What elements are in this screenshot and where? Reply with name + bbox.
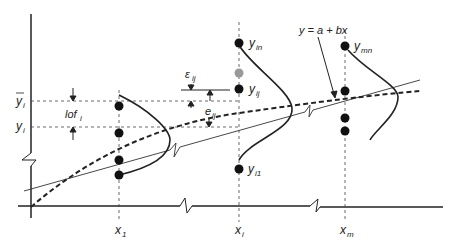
svg-text:y: y: [248, 82, 256, 96]
label-ymn: y mn: [353, 39, 373, 55]
point-mean-xi: [235, 69, 244, 78]
label-yin: y in: [248, 36, 263, 52]
label-lof: lof i: [65, 108, 82, 123]
label-yij: y ij: [248, 82, 260, 98]
svg-text:ij: ij: [212, 111, 216, 120]
label-epsilon: ε ij: [185, 68, 196, 83]
svg-text:x: x: [339, 223, 347, 237]
svg-text:y: y: [353, 39, 361, 53]
svg-text:y: y: [15, 119, 23, 133]
svg-text:i: i: [242, 230, 244, 239]
equation-pointer: [318, 37, 337, 98]
svg-text:ε: ε: [185, 68, 190, 80]
point-xm-2: [341, 87, 350, 96]
svg-text:e: e: [205, 105, 211, 117]
svg-text:ij: ij: [256, 89, 260, 98]
svg-text:in: in: [256, 43, 263, 52]
label-yi1: y i1: [247, 162, 261, 178]
svg-text:x: x: [114, 223, 122, 237]
svg-text:lof: lof: [65, 108, 78, 120]
svg-text:mn: mn: [361, 46, 373, 55]
point-x1-3: [115, 156, 124, 165]
svg-text:y: y: [15, 94, 23, 108]
data-points: [115, 39, 350, 180]
label-xi: x i: [234, 223, 244, 239]
svg-text:i: i: [23, 126, 25, 135]
point-ymn: [341, 42, 350, 51]
svg-text:i: i: [23, 101, 25, 110]
point-xm-4: [341, 127, 350, 136]
equation-label: y = a + bx: [298, 24, 348, 36]
x-guides: [119, 22, 345, 222]
point-yij: [235, 85, 244, 94]
svg-text:y: y: [248, 36, 256, 50]
svg-text:x: x: [234, 223, 242, 237]
point-x1-4: [115, 171, 124, 180]
label-x1: x 1: [114, 223, 126, 239]
y-axis: [22, 14, 36, 218]
point-yi1: [235, 165, 244, 174]
mean-curve: [31, 91, 420, 207]
svg-text:1: 1: [122, 230, 126, 239]
x-axis: [18, 198, 443, 213]
point-x1-2: [115, 129, 124, 138]
distribution-xi: [239, 45, 292, 160]
svg-text:i: i: [80, 114, 82, 123]
distribution-xm: [348, 50, 398, 140]
distribution-x1: [119, 95, 170, 175]
point-yin: [235, 39, 244, 48]
point-x1-1: [115, 102, 124, 111]
svg-text:m: m: [347, 230, 354, 239]
svg-text:i1: i1: [255, 169, 261, 178]
label-ybar: y i: [15, 93, 25, 110]
point-xm-3: [341, 114, 350, 123]
label-xm: x m: [339, 223, 354, 239]
diagram-canvas: y = a + bx y i y i lof i ε ij e ij y in …: [0, 0, 451, 249]
svg-text:y: y: [247, 162, 255, 176]
svg-text:ij: ij: [192, 74, 196, 83]
label-yhat: y i: [15, 119, 25, 135]
